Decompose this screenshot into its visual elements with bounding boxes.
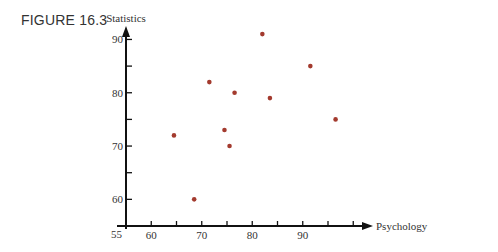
- data-point: [207, 80, 212, 85]
- y-tick-label: 70: [112, 140, 124, 152]
- data-point: [333, 117, 338, 122]
- data-point: [172, 133, 177, 138]
- data-point: [222, 128, 227, 133]
- y-axis-arrow-icon: [122, 26, 130, 37]
- x-tick-label: 80: [247, 229, 259, 241]
- data-point: [260, 32, 265, 37]
- y-ticks: 60708090: [112, 33, 132, 205]
- y-tick-label: 60: [112, 193, 124, 205]
- scatter-plot: 60708090 60708090 Statistics Psychology …: [0, 0, 498, 252]
- x-tick-label: 60: [146, 229, 158, 241]
- data-point: [308, 64, 313, 69]
- y-tick-label: 80: [112, 87, 124, 99]
- x-axis-title: Psychology: [376, 220, 428, 232]
- data-point: [192, 197, 197, 202]
- data-point: [227, 144, 232, 149]
- data-point: [268, 96, 273, 101]
- origin-label: 55: [111, 228, 123, 240]
- data-points: [172, 32, 338, 202]
- data-point: [232, 90, 237, 95]
- axes: [117, 26, 373, 230]
- y-axis-title: Statistics: [106, 12, 146, 24]
- x-ticks: 60708090: [146, 221, 354, 241]
- y-tick-label: 90: [112, 33, 124, 45]
- x-axis-arrow-icon: [362, 222, 373, 230]
- x-tick-label: 90: [297, 229, 309, 241]
- x-tick-label: 70: [196, 229, 208, 241]
